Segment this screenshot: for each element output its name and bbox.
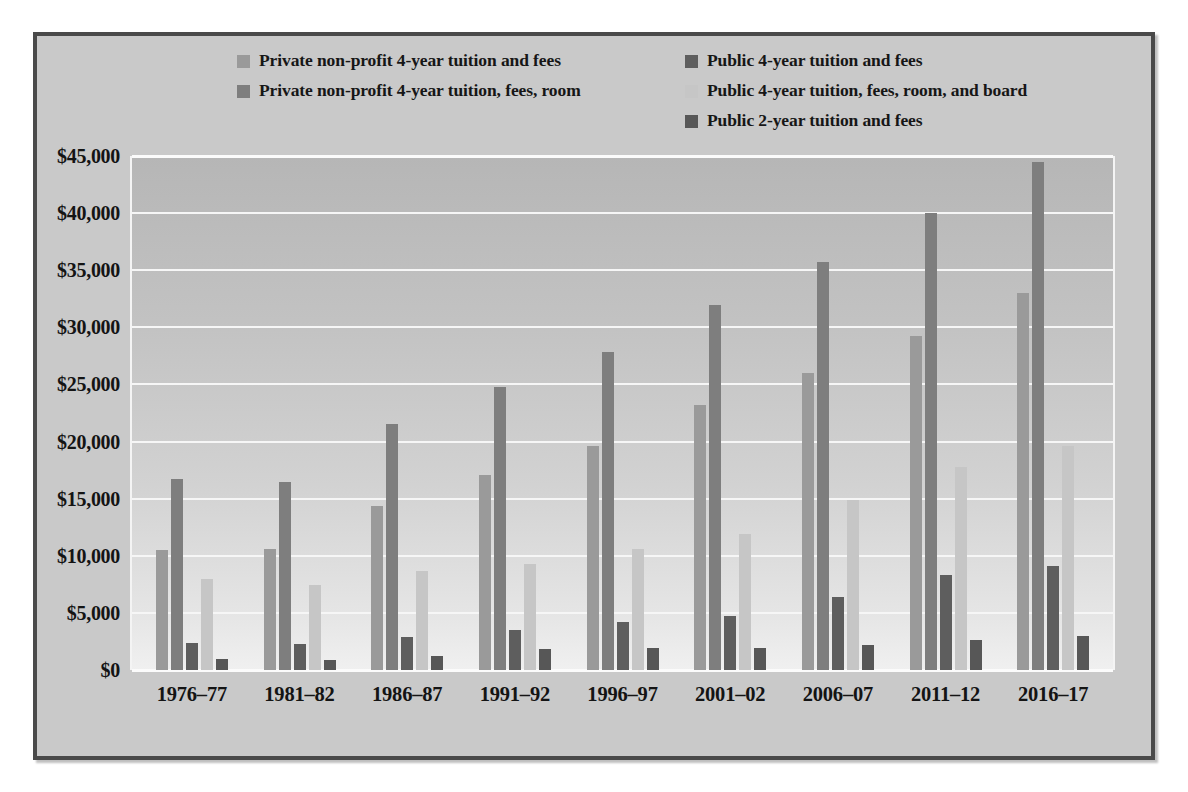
bar[interactable]	[739, 534, 751, 670]
plot-area-wrapper: $45,000$40,000$35,000$30,000$25,000$20,0…	[130, 156, 1115, 670]
bar[interactable]	[817, 262, 829, 670]
bar[interactable]	[647, 648, 659, 670]
legend-item-private-tuition-fees-room[interactable]: Private non-profit 4-year tuition, fees,…	[237, 78, 685, 104]
legend-item-label: Public 2-year tuition and fees	[707, 111, 922, 130]
y-axis-tick-label: $5,000	[67, 601, 120, 624]
y-axis-tick-label: $0	[101, 659, 120, 682]
bar[interactable]	[587, 446, 599, 670]
bar[interactable]	[709, 305, 721, 671]
y-axis-tick-label: $15,000	[57, 487, 120, 510]
x-axis-tick-label: 1981–82	[264, 683, 334, 706]
bar[interactable]	[862, 645, 874, 670]
bar[interactable]	[832, 597, 844, 670]
bar[interactable]	[847, 500, 859, 670]
bar[interactable]	[479, 475, 491, 670]
bar[interactable]	[955, 467, 967, 670]
legend-swatch-icon	[237, 85, 250, 98]
bar[interactable]	[1077, 636, 1089, 670]
bar[interactable]	[694, 405, 706, 670]
x-axis-tick-label: 2011–12	[911, 683, 980, 706]
bar[interactable]	[171, 479, 183, 670]
x-axis-tick-label: 2001–02	[695, 683, 765, 706]
bar[interactable]	[910, 336, 922, 670]
y-axis-tick-label: $40,000	[57, 202, 120, 225]
plot-area: $45,000$40,000$35,000$30,000$25,000$20,0…	[130, 156, 1115, 670]
x-axis-tick-label: 2016–17	[1018, 683, 1088, 706]
y-axis-tick-label: $45,000	[57, 145, 120, 168]
x-axis-tick-label: 1986–87	[372, 683, 442, 706]
chart-figure: Private non-profit 4-year tuition and fe…	[33, 32, 1155, 760]
bar-group: 1996–97	[569, 156, 677, 670]
bar-group: 2016–17	[999, 156, 1107, 670]
bar[interactable]	[539, 649, 551, 670]
bar[interactable]	[494, 387, 506, 670]
bar[interactable]	[294, 644, 306, 670]
bar[interactable]	[970, 640, 982, 670]
legend-item-public4-tuition-fees-room-board[interactable]: Public 4-year tuition, fees, room, and b…	[685, 78, 1125, 104]
bar[interactable]	[216, 659, 228, 670]
bar[interactable]	[802, 373, 814, 670]
legend-swatch-icon	[685, 115, 698, 128]
x-axis-tick-label: 1996–97	[587, 683, 657, 706]
bar-group: 2011–12	[892, 156, 1000, 670]
legend-item-private-tuition-fees[interactable]: Private non-profit 4-year tuition and fe…	[237, 48, 685, 74]
y-axis-tick-label: $10,000	[57, 544, 120, 567]
bar[interactable]	[186, 643, 198, 670]
bar-group: 2006–07	[784, 156, 892, 670]
bar[interactable]	[201, 579, 213, 670]
bar[interactable]	[416, 571, 428, 670]
bar-group: 1981–82	[246, 156, 354, 670]
bar[interactable]	[632, 549, 644, 670]
bar[interactable]	[156, 550, 168, 670]
x-axis-tick-label: 1991–92	[480, 683, 550, 706]
legend-item-label: Public 4-year tuition and fees	[707, 51, 922, 70]
legend-swatch-icon	[685, 85, 698, 98]
bar[interactable]	[309, 585, 321, 670]
bar[interactable]	[1062, 446, 1074, 670]
legend-column-left: Private non-profit 4-year tuition and fe…	[237, 48, 685, 104]
bar-group: 2001–02	[676, 156, 784, 670]
bar[interactable]	[509, 630, 521, 670]
y-axis-tick-label: $20,000	[57, 430, 120, 453]
bar[interactable]	[1047, 566, 1059, 670]
x-axis-tick-label: 1976–77	[157, 683, 227, 706]
legend-swatch-icon	[685, 55, 698, 68]
bar-group: 1986–87	[353, 156, 461, 670]
bar[interactable]	[524, 564, 536, 670]
chart-legend: Private non-profit 4-year tuition and fe…	[37, 48, 1151, 158]
bar[interactable]	[754, 648, 766, 670]
bar[interactable]	[264, 549, 276, 670]
legend-item-public4-tuition-fees[interactable]: Public 4-year tuition and fees	[685, 48, 1125, 74]
bar-group: 1976–77	[138, 156, 246, 670]
y-axis-tick-label: $25,000	[57, 373, 120, 396]
y-axis-tick-label: $35,000	[57, 259, 120, 282]
bar[interactable]	[279, 482, 291, 670]
bar[interactable]	[431, 656, 443, 670]
bar-group: 1991–92	[461, 156, 569, 670]
x-axis-tick-label: 2006–07	[803, 683, 873, 706]
bar[interactable]	[324, 660, 336, 670]
bar[interactable]	[1032, 162, 1044, 670]
bar[interactable]	[401, 637, 413, 670]
bar[interactable]	[1017, 293, 1029, 670]
bar[interactable]	[386, 424, 398, 670]
legend-item-label: Private non-profit 4-year tuition, fees,…	[259, 81, 581, 100]
bar[interactable]	[940, 575, 952, 670]
legend-item-public2-tuition-fees[interactable]: Public 2-year tuition and fees	[685, 108, 1125, 134]
bar[interactable]	[925, 213, 937, 670]
bar-groups: 1976–771981–821986–871991–921996–972001–…	[132, 156, 1113, 670]
legend-column-right: Public 4-year tuition and fees Public 4-…	[685, 48, 1125, 134]
legend-swatch-icon	[237, 55, 250, 68]
bar[interactable]	[617, 622, 629, 670]
legend-item-label: Public 4-year tuition, fees, room, and b…	[707, 81, 1027, 100]
legend-item-label: Private non-profit 4-year tuition and fe…	[259, 51, 561, 70]
bar[interactable]	[371, 506, 383, 670]
bar[interactable]	[724, 616, 736, 670]
y-axis-tick-label: $30,000	[57, 316, 120, 339]
bar[interactable]	[602, 352, 614, 670]
